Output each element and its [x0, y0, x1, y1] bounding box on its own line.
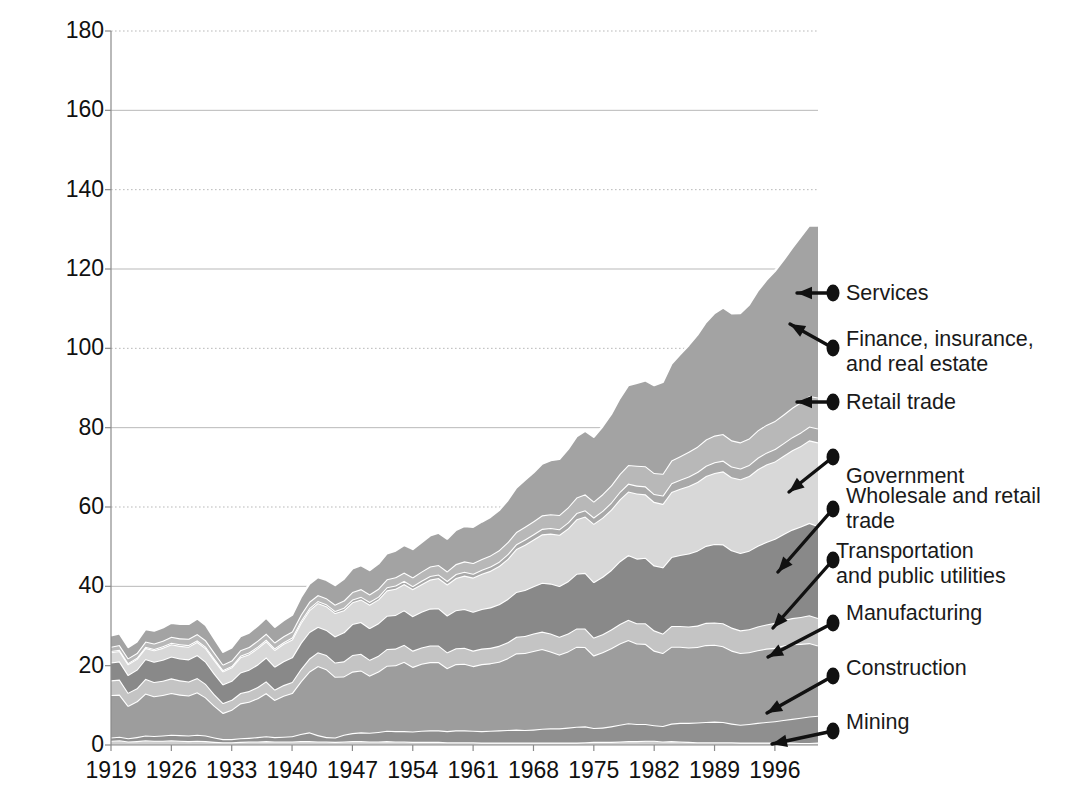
callout-label-construction: Construction	[846, 656, 967, 681]
callout-label-line: Services	[846, 281, 928, 306]
callout-label-line: and public utilities	[836, 564, 1006, 589]
callout-label-wholesale-and-retail-trade: Wholesale and retailtrade	[846, 484, 1041, 534]
callout-label-line: Mining	[846, 710, 909, 735]
callout-label-transportation-and-public-utilities: Transportationand public utilities	[836, 539, 1006, 589]
callout-label-line: Wholesale and retail	[846, 484, 1041, 509]
area-series-group	[111, 225, 818, 745]
callout-label-line: trade	[846, 509, 1041, 534]
callout-label-line: and real estate	[846, 352, 1034, 377]
callout-label-line: Construction	[846, 656, 967, 681]
callout-label-line: Finance, insurance,	[846, 327, 1034, 352]
callout-label-line: Transportation	[836, 539, 1006, 564]
callout-label-manufacturing: Manufacturing	[846, 601, 982, 626]
callout-label-retail-trade: Retail trade	[846, 390, 956, 415]
callout-label-finance-insurance-and-real-estate: Finance, insurance,and real estate	[846, 327, 1034, 377]
callout-label-line: Manufacturing	[846, 601, 982, 626]
callout-label-line: Retail trade	[846, 390, 956, 415]
employment-stacked-area-chart: Millions 020406080100120140160180 191919…	[0, 0, 1077, 806]
callout-label-services: Services	[846, 281, 928, 306]
callout-label-mining: Mining	[846, 710, 909, 735]
